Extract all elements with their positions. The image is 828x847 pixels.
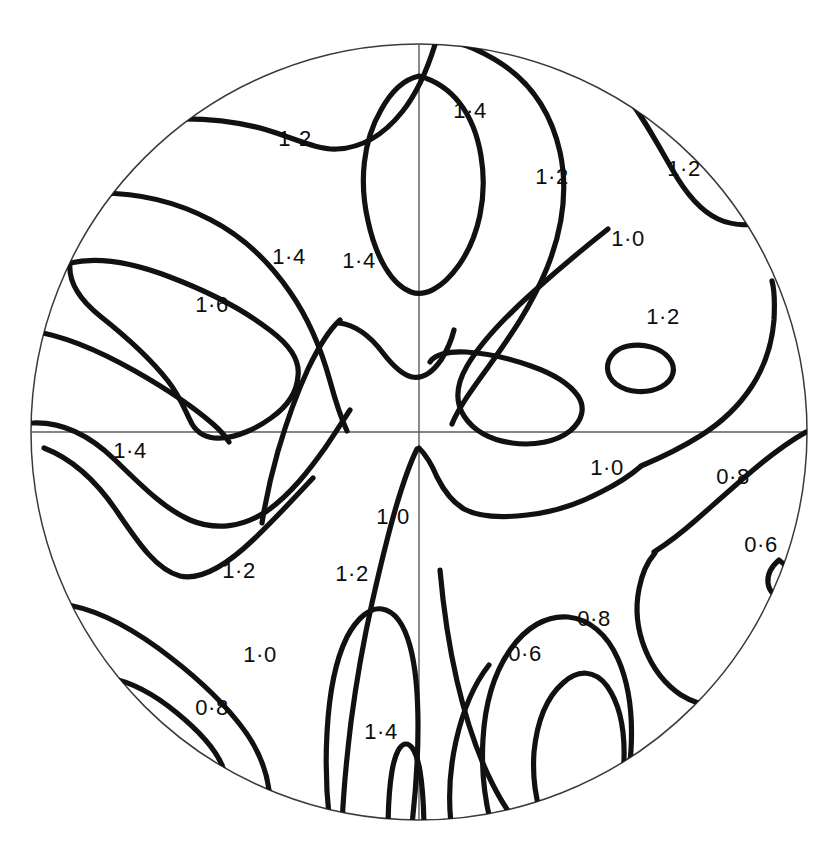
contour-value-label: 0·8 [195,695,229,720]
contour-value-label: 1·4 [342,248,376,273]
contour-value-label: 1·0 [376,504,410,529]
contour-value-label: 0·8 [716,464,750,489]
contour-value-label: 1·4 [272,244,306,269]
contour-value-label: 1·4 [364,719,398,744]
pole-figure-container: 1·21·41·21·21·41·41·01·61·21·41·00·81·00… [0,0,828,847]
contour-value-label: 1·0 [611,226,645,251]
pole-figure-plot: 1·21·41·21·21·41·41·01·61·21·41·00·81·00… [0,0,828,847]
contour-value-label: 0·6 [508,641,542,666]
contour-value-label: 1·2 [535,164,569,189]
contour-value-label: 1·2 [667,156,701,181]
contour-value-label: 1·0 [243,642,277,667]
contour-value-label: 1·2 [335,561,369,586]
contour-value-label: 1·2 [278,126,312,151]
contour-value-label: 1·0 [590,455,624,480]
contour-value-label: 1·4 [453,98,487,123]
contour-value-label: 1·6 [195,292,229,317]
contour-value-label: 1·4 [113,438,147,463]
contour-value-label: 0·8 [577,606,611,631]
contour-value-label: 0·6 [744,532,778,557]
contour-value-label: 1·2 [646,304,680,329]
contour-value-label: 1·2 [222,558,256,583]
